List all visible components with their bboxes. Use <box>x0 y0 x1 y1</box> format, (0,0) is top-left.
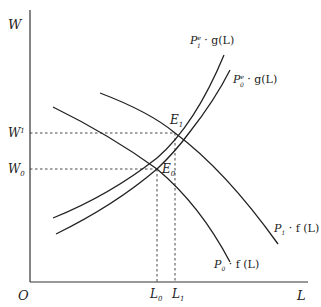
l0-label: L0 <box>149 287 163 303</box>
curve-label-p0-f: P0 · f (L) <box>213 258 259 272</box>
origin-label: O <box>18 288 29 303</box>
curve-p1-f <box>100 93 278 244</box>
curve-label-p1e-g: Pe1 · g(L) <box>189 34 234 49</box>
curve-p0e-g <box>56 70 230 234</box>
curve-p0-f <box>53 107 230 262</box>
e1-label: E1 <box>169 113 183 129</box>
x-axis-label: L <box>296 288 306 303</box>
y-axis-label: W <box>8 17 23 32</box>
labor-market-diagram: W L O W1 W0 L0 L1 E1 E0 Pe1 · g(L) Pe0 ·… <box>0 0 321 307</box>
w1-label: W1 <box>8 126 25 140</box>
curve-label-p1-f: P1 · f (L) <box>273 222 319 236</box>
e0-label: E0 <box>161 162 176 178</box>
curve-p1e-g <box>53 55 224 218</box>
curve-label-p0e-g: Pe0 · g(L) <box>232 73 277 88</box>
w0-label: W0 <box>8 162 25 178</box>
l1-label: L1 <box>171 287 184 303</box>
